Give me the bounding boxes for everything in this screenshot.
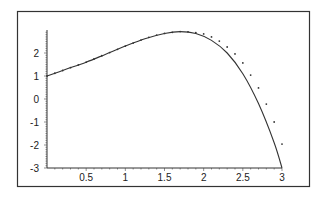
- data-point: [195, 32, 197, 34]
- data-point: [281, 143, 283, 145]
- data-point: [203, 33, 205, 35]
- x-tick-label: 2.5: [236, 172, 250, 183]
- y-tick-label: -2: [30, 140, 39, 151]
- data-point: [171, 31, 173, 33]
- data-point: [187, 31, 189, 33]
- data-point: [156, 34, 158, 36]
- data-point: [218, 40, 220, 42]
- data-point: [250, 74, 252, 76]
- data-point: [101, 55, 103, 57]
- x-tick-label: 1: [123, 172, 129, 183]
- data-point: [164, 33, 166, 35]
- y-tick-label: 2: [33, 48, 39, 59]
- y-tick-label: -3: [30, 163, 39, 174]
- data-point: [258, 87, 260, 89]
- data-point: [124, 45, 126, 47]
- data-point: [77, 64, 79, 66]
- data-point: [273, 121, 275, 123]
- data-point: [242, 62, 244, 64]
- x-tick-label: 2: [201, 172, 207, 183]
- data-point: [70, 67, 72, 69]
- data-point: [109, 52, 111, 54]
- data-point: [54, 72, 56, 74]
- data-point: [132, 42, 134, 44]
- data-point: [226, 46, 228, 48]
- y-tick-label: 0: [33, 94, 39, 105]
- data-point: [148, 36, 150, 38]
- data-point: [140, 39, 142, 41]
- x-tick-label: 1.5: [158, 172, 172, 183]
- chart: -3-2-10120.511.522.53: [0, 0, 327, 198]
- data-point: [62, 70, 64, 72]
- x-tick-label: 3: [279, 172, 285, 183]
- data-point: [265, 103, 267, 105]
- x-tick-label: 0.5: [79, 172, 93, 183]
- data-point: [46, 75, 48, 77]
- data-point: [179, 31, 181, 33]
- chart-frame: [18, 12, 310, 187]
- data-point: [211, 36, 213, 38]
- data-point: [117, 48, 119, 50]
- y-tick-label: -1: [30, 117, 39, 128]
- y-tick-label: 1: [33, 71, 39, 82]
- data-point: [234, 53, 236, 55]
- data-point: [85, 61, 87, 63]
- data-point: [93, 58, 95, 60]
